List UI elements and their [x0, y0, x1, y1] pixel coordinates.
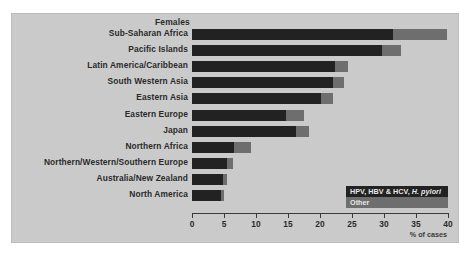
x-tick-label: 40 [443, 219, 452, 229]
legend-item-primary: HPV, HBV & HCV, H. pylori [346, 186, 448, 197]
category-label: Pacific Islands [128, 44, 188, 54]
bar-segment-primary [192, 110, 286, 121]
bar-segment-primary [192, 190, 221, 201]
legend-item-other: Other [346, 197, 448, 208]
bar-segment-other [296, 126, 309, 137]
legend-label-primary: HPV, HBV & HCV, H. pylori [350, 187, 441, 196]
bar-segment-primary [192, 126, 296, 137]
bar-row: Pacific Islands [192, 45, 448, 56]
bar-segment-primary [192, 29, 393, 40]
bar-segment-primary [192, 61, 335, 72]
bar-segment-other [223, 174, 227, 185]
x-tick-label: 30 [379, 219, 388, 229]
bar-segment-other [234, 142, 251, 153]
bar-segment-primary [192, 174, 223, 185]
x-tick [192, 213, 193, 218]
chart-title: Females [12, 17, 190, 27]
category-label: Northern/Western/Southern Europe [44, 157, 188, 167]
category-label: Eastern Asia [136, 92, 188, 102]
category-label: Australia/New Zealand [97, 173, 188, 183]
x-tick-label: 35 [411, 219, 420, 229]
category-label: South Western Asia [108, 76, 188, 86]
category-label: Eastern Europe [125, 109, 188, 119]
category-label: Japan [163, 125, 188, 135]
x-tick-label: 5 [222, 219, 227, 229]
x-tick [416, 213, 417, 218]
x-tick [288, 213, 289, 218]
bar-row: Australia/New Zealand [192, 174, 448, 185]
x-tick-label: 20 [315, 219, 324, 229]
bar-segment-primary [192, 158, 227, 169]
category-label: North America [129, 189, 188, 199]
x-tick-label: 0 [190, 219, 195, 229]
bar-segment-other [227, 158, 233, 169]
x-tick [384, 213, 385, 218]
bar-row: Sub-Saharan Africa [192, 29, 448, 40]
bar-row: Eastern Europe [192, 110, 448, 121]
chart-legend: HPV, HBV & HCV, H. pylori Other [346, 186, 448, 208]
bar-segment-primary [192, 93, 321, 104]
legend-label-other: Other [350, 198, 369, 207]
x-tick [256, 213, 257, 218]
plot-area: Sub-Saharan AfricaPacific IslandsLatin A… [192, 28, 448, 200]
x-tick [320, 213, 321, 218]
x-tick-label: 10 [251, 219, 260, 229]
bar-row: Northern/Western/Southern Europe [192, 158, 448, 169]
bar-segment-other [382, 45, 401, 56]
bar-row: Latin America/Caribbean [192, 61, 448, 72]
x-tick [224, 213, 225, 218]
bar-segment-other [333, 77, 345, 88]
bar-segment-primary [192, 77, 333, 88]
bar-segment-primary [192, 45, 382, 56]
bar-row: Japan [192, 126, 448, 137]
x-tick [448, 213, 449, 218]
x-tick [352, 213, 353, 218]
bar-segment-other [286, 110, 304, 121]
category-label: Northern Africa [125, 141, 188, 151]
category-label: Latin America/Caribbean [87, 60, 188, 70]
chart-panel: Females Sub-Saharan AfricaPacific Island… [11, 13, 459, 243]
bar-segment-other [335, 61, 348, 72]
x-tick-label: 15 [283, 219, 292, 229]
x-axis-label: % of cases [410, 230, 447, 239]
x-tick-label: 25 [347, 219, 356, 229]
bar-row: Eastern Asia [192, 93, 448, 104]
bar-segment-other [393, 29, 447, 40]
bar-segment-other [321, 93, 333, 104]
bar-segment-primary [192, 142, 234, 153]
bar-row: Northern Africa [192, 142, 448, 153]
category-label: Sub-Saharan Africa [109, 28, 188, 38]
bar-segment-other [221, 190, 224, 201]
chart-figure: Females Sub-Saharan AfricaPacific Island… [0, 0, 470, 255]
bar-row: South Western Asia [192, 77, 448, 88]
